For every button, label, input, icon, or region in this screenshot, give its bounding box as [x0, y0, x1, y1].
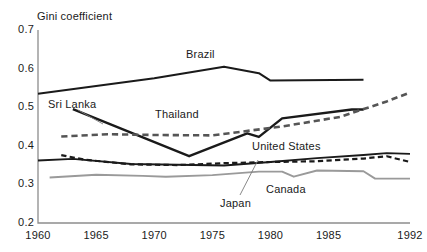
series-line-brazil — [38, 67, 364, 94]
y-tick-label: 0.6 — [0, 62, 34, 74]
axis-lines — [38, 30, 410, 223]
series-label-canada: Canada — [266, 183, 306, 195]
leader-line-sri-lanka — [78, 110, 103, 124]
y-tick-label: 0.4 — [0, 139, 34, 151]
leader-line-japan — [240, 160, 258, 195]
x-tick-label: 1980 — [246, 229, 296, 241]
series-label-japan: Japan — [220, 197, 251, 209]
x-tick-label: 1965 — [71, 229, 121, 241]
x-tick-label: 1975 — [187, 229, 237, 241]
series-label-brazil: Brazil — [186, 48, 215, 60]
x-tick-label: 1985 — [304, 229, 354, 241]
x-tick-label: 1960 — [13, 229, 63, 241]
series-label-sri-lanka: Sri Lanka — [48, 98, 96, 110]
y-tick-label: 0.3 — [0, 177, 34, 189]
y-tick-label: 0.7 — [0, 23, 34, 35]
series-line-thailand — [61, 93, 410, 137]
x-tick-label: 1992 — [385, 229, 427, 241]
series-line-japan — [61, 155, 410, 165]
series-label-thailand: Thailand — [155, 108, 199, 120]
series-line-canada — [50, 171, 410, 179]
y-tick-label: 0.5 — [0, 100, 34, 112]
x-tick-label: 1970 — [129, 229, 179, 241]
y-tick-label: 0.2 — [0, 216, 34, 228]
series-label-united-states: United States — [252, 140, 321, 152]
